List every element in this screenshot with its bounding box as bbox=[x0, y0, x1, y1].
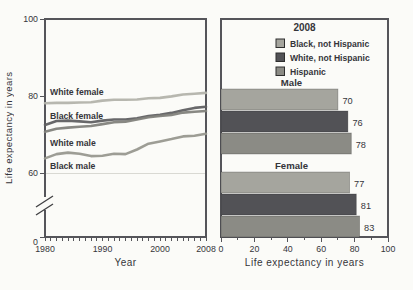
bar-female-white-not-hispanic bbox=[221, 194, 356, 215]
left-chart-x-axis-label: Year bbox=[45, 257, 206, 268]
charts-canvas: 060801001980199020002008White femaleBlac… bbox=[0, 0, 413, 290]
x-tick-label: 2000 bbox=[150, 244, 170, 254]
bar-group-label: Female bbox=[275, 160, 308, 171]
x-tick-label: 2008 bbox=[196, 244, 216, 254]
series-label: White female bbox=[50, 87, 104, 97]
y-tick-label: 100 bbox=[23, 14, 38, 24]
x-tick-label: 80 bbox=[350, 244, 360, 254]
bar-value-label: 78 bbox=[356, 140, 366, 150]
figure-life-expectancy: Life expectancy in years 060801001980199… bbox=[0, 0, 413, 290]
x-tick-label: 60 bbox=[316, 244, 326, 254]
legend-swatch bbox=[276, 53, 285, 62]
legend-swatch bbox=[276, 39, 285, 48]
series-label: Black male bbox=[50, 161, 96, 171]
y-tick-label: 80 bbox=[28, 91, 38, 101]
x-tick-label: 0 bbox=[219, 244, 224, 254]
bar-group-label: Male bbox=[281, 77, 302, 88]
bar-value-label: 70 bbox=[342, 96, 352, 106]
bar-value-label: 77 bbox=[354, 179, 364, 189]
x-tick-label: 40 bbox=[283, 244, 293, 254]
series-label: White male bbox=[50, 138, 96, 148]
x-tick-label: 1980 bbox=[35, 244, 55, 254]
bar-male-black-not-hispanic bbox=[221, 89, 338, 110]
bar-value-label: 83 bbox=[364, 223, 374, 233]
x-tick-label: 100 bbox=[381, 244, 396, 254]
bar-value-label: 81 bbox=[361, 201, 371, 211]
x-tick-label: 1990 bbox=[93, 244, 113, 254]
bar-female-black-not-hispanic bbox=[221, 172, 350, 193]
legend-label: Hispanic bbox=[290, 67, 326, 77]
bar-male-white-not-hispanic bbox=[221, 111, 348, 132]
bar-male-hispanic bbox=[221, 133, 351, 154]
bar-chart-title: 2008 bbox=[293, 22, 316, 33]
legend-label: Black, not Hispanic bbox=[290, 39, 369, 49]
bar-value-label: 76 bbox=[352, 118, 362, 128]
legend-label: White, not Hispanic bbox=[290, 53, 370, 63]
x-tick-label: 20 bbox=[250, 244, 260, 254]
legend-swatch bbox=[276, 67, 285, 76]
bar-female-hispanic bbox=[221, 216, 360, 237]
series-label: Black female bbox=[50, 111, 103, 121]
y-tick-label: 60 bbox=[28, 168, 38, 178]
left-chart-y-axis-label: Life expectancy in years bbox=[1, 19, 15, 237]
right-chart-x-axis-label: Life expectancy in years bbox=[219, 257, 390, 268]
